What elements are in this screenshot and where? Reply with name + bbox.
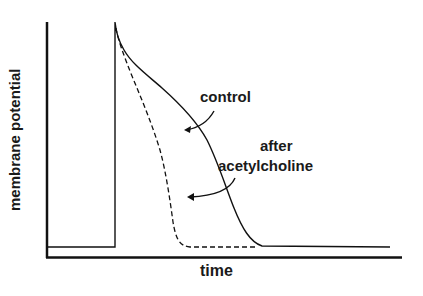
- y-axis-label: membrane potential: [6, 69, 23, 212]
- control-arrowhead-icon: [184, 126, 191, 133]
- after-annotation-line1: after: [260, 137, 293, 154]
- x-axis-label: time: [200, 262, 233, 280]
- acetylcholine-curve: [116, 28, 256, 247]
- control-annotation: control: [200, 88, 251, 105]
- action-potential-figure: [0, 0, 423, 296]
- acetylcholine-arrowhead-icon: [187, 193, 194, 201]
- control-curve: [48, 22, 390, 247]
- after-annotation-line2: acetylcholine: [218, 157, 313, 174]
